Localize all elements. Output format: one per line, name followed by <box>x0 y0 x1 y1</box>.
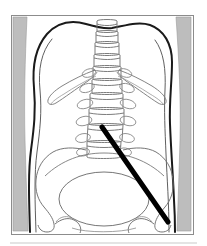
anatomy-figure <box>0 0 207 246</box>
illustration-stage <box>0 0 207 246</box>
